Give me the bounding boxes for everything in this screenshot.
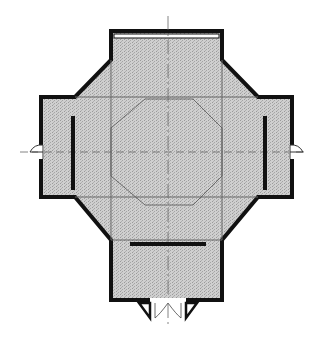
left-interior-wall	[71, 116, 75, 190]
top-window	[114, 34, 219, 38]
bottom-interior-wall	[130, 242, 206, 246]
right-door[interactable]	[289, 145, 303, 159]
exterior-walls	[41, 31, 292, 300]
floor-plan	[0, 0, 326, 343]
right-interior-wall	[263, 116, 267, 190]
left-door[interactable]	[30, 145, 44, 159]
